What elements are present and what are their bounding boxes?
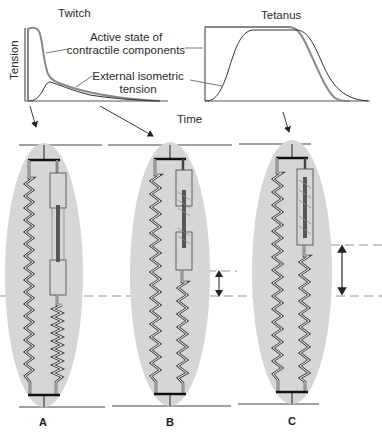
panel-B-muscle-model <box>130 142 210 406</box>
twitch-active-leader <box>46 49 68 53</box>
arrow-to-B <box>100 106 153 136</box>
arrow-to-A <box>30 106 36 127</box>
external-tension-label-line2: tension <box>88 83 188 96</box>
y-axis-label: Tension <box>8 40 20 80</box>
active-state-label-line2: contractile components <box>66 44 186 57</box>
tetanus-active-state-curve <box>205 27 350 101</box>
panel-C-muscle-model <box>252 140 332 404</box>
panel-label-A: A <box>39 416 47 428</box>
tetanus-chart <box>205 27 370 101</box>
tetanus-external-tension-curve <box>205 30 368 101</box>
x-axis-label: Time <box>177 113 202 126</box>
active-state-label-line1: Active state of <box>66 31 186 44</box>
external-tension-label-line1: External isometric <box>88 70 188 83</box>
tetanus-chart-title: Tetanus <box>261 9 301 22</box>
tetanus-external-leader <box>190 80 222 86</box>
panel-label-C: C <box>288 415 296 427</box>
muscle-model-diagram <box>0 0 382 434</box>
panel-A-muscle-model <box>5 143 83 407</box>
twitch-chart-title: Twitch <box>58 7 91 20</box>
external-tension-label: External isometric tension <box>88 70 188 96</box>
panel-label-B: B <box>166 416 174 428</box>
arrow-to-C <box>283 112 289 132</box>
active-state-label: Active state of contractile components <box>66 31 186 57</box>
